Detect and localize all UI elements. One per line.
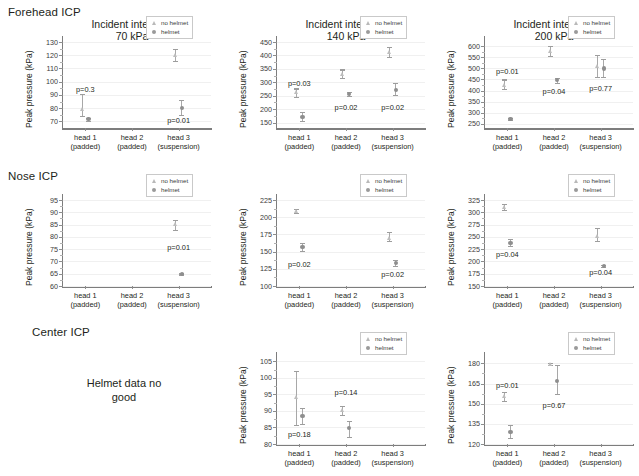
y-tick-mark	[273, 252, 277, 253]
y-tick-mark	[59, 82, 63, 83]
y-tick-mark	[273, 444, 277, 445]
error-bar-cap-top	[508, 425, 513, 426]
y-tick-minor	[60, 206, 63, 207]
gridline	[485, 124, 633, 125]
data-point-helmet	[300, 245, 304, 249]
legend-label-no-helmet: no helmet	[161, 19, 188, 28]
circle-marker-icon	[366, 188, 370, 192]
x-tick-label-2: head 3(suspension)	[361, 449, 425, 468]
y-tick-mark	[481, 249, 485, 250]
error-bar-cap-bottom	[595, 77, 600, 78]
y-tick-minor	[482, 63, 485, 64]
y-tick-minor	[482, 394, 485, 395]
figure-root: Forehead ICPNose ICPCenter ICPIncident i…	[0, 0, 639, 476]
error-bar-cap-bottom	[555, 394, 560, 395]
legend-marker-helmet	[150, 30, 157, 34]
gridline	[485, 46, 633, 47]
y-tick-minor	[60, 268, 63, 269]
error-bar-cap-bottom	[294, 425, 299, 426]
p-value-annotation: p=0.01	[487, 67, 527, 76]
legend-entry-helmet: helmet	[572, 28, 610, 37]
gridline	[277, 361, 425, 362]
gridline	[63, 212, 211, 213]
triangle-marker-icon	[366, 337, 370, 341]
x-tick-mark	[346, 444, 347, 447]
x-tick-name: head 3	[361, 449, 425, 458]
gridline	[485, 225, 633, 226]
error-bar-cap-top	[294, 371, 299, 372]
legend-entry-no-helmet: no helmet	[364, 19, 402, 28]
circle-marker-icon	[574, 346, 578, 350]
x-tick-sub: (suspension)	[361, 142, 425, 151]
y-tick-minor	[274, 436, 277, 437]
gridline	[485, 57, 633, 58]
gridline	[277, 217, 425, 218]
gridline	[63, 55, 211, 56]
y-tick-minor	[482, 255, 485, 256]
legend-entry-helmet: helmet	[150, 28, 188, 37]
y-tick-minor	[482, 434, 485, 435]
y-tick-mark	[481, 102, 485, 103]
error-bar-cap-top	[393, 83, 398, 84]
y-tick-minor	[274, 243, 277, 244]
y-tick-minor	[482, 107, 485, 108]
legend-label-no-helmet: no helmet	[583, 177, 610, 186]
legend-marker-helmet	[364, 188, 371, 192]
y-tick-minor	[60, 102, 63, 103]
data-point-no-helmet	[548, 362, 552, 366]
error-bar-cap-bottom	[300, 424, 305, 425]
gridline	[485, 261, 633, 262]
x-tick-mark	[85, 128, 86, 131]
data-point-no-helmet	[387, 236, 391, 240]
y-tick-mark	[273, 269, 277, 270]
p-value-annotation: p=0.18	[279, 430, 319, 439]
legend-label-helmet: helmet	[161, 28, 180, 37]
y-tick-minor	[60, 62, 63, 63]
y-axis-line	[62, 194, 63, 286]
x-tick-mark	[346, 286, 347, 289]
y-tick-mark	[481, 68, 485, 69]
y-tick-minor	[482, 268, 485, 269]
y-tick-mark	[59, 286, 63, 287]
chart-panel-center-70: Helmet data nogood	[18, 330, 214, 472]
y-tick-mark	[59, 237, 63, 238]
y-tick-minor	[482, 414, 485, 415]
y-tick-mark	[481, 424, 485, 425]
y-axis-line	[484, 352, 485, 444]
error-bar-cap-bottom	[387, 57, 392, 58]
x-tick-mark	[179, 286, 180, 289]
legend-marker-helmet	[150, 188, 157, 192]
x-tick-name: head 3	[361, 133, 425, 142]
data-point-helmet	[180, 106, 184, 110]
data-point-helmet	[508, 241, 512, 245]
circle-marker-icon	[366, 30, 370, 34]
x-tick-mark	[507, 444, 508, 447]
x-tick-mark	[85, 286, 86, 289]
x-tick-label-2: head 3(suspension)	[361, 291, 425, 310]
gridline	[277, 378, 425, 379]
data-point-no-helmet	[80, 107, 84, 111]
y-axis-title: Peak pressure (kPa)	[24, 51, 34, 128]
y-axis-title: Peak pressure (kPa)	[238, 51, 248, 128]
x-tick-mark	[554, 128, 555, 131]
triangle-marker-icon	[574, 21, 578, 25]
p-value-annotation: p=0.03	[279, 79, 319, 88]
y-tick-mark	[59, 121, 63, 122]
x-tick-sub: (suspension)	[361, 458, 425, 467]
x-tick-sub: (suspension)	[361, 300, 425, 309]
x-tick-mark	[132, 128, 133, 131]
y-tick-mark	[481, 363, 485, 364]
legend: no helmethelmet	[360, 332, 407, 355]
error-bar-cap-bottom	[548, 56, 553, 57]
legend-label-helmet: helmet	[375, 186, 394, 195]
y-tick-minor	[274, 419, 277, 420]
data-point-helmet	[508, 117, 512, 121]
p-value-annotation: p=0.02	[373, 103, 413, 112]
y-tick-mark	[273, 55, 277, 56]
error-bar-cap-top	[502, 392, 507, 393]
y-tick-mark	[481, 286, 485, 287]
y-tick-mark	[59, 261, 63, 262]
error-bar-cap-top	[340, 406, 345, 407]
gridline	[63, 108, 211, 109]
gridline	[63, 261, 211, 262]
